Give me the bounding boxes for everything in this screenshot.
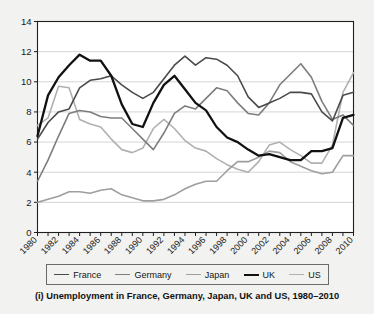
xtick-label-1984: 1984 — [60, 235, 81, 256]
xtick-label-2008: 2008 — [313, 235, 334, 256]
figure-caption: (i) Unemployment in France, Germany, Jap… — [0, 291, 374, 301]
legend-entry-japan[interactable]: Japan — [186, 270, 230, 280]
xtick-label-1986: 1986 — [81, 235, 102, 256]
legend-label-france: France — [73, 270, 101, 280]
ytick-label-6: 6 — [26, 136, 31, 147]
legend-label-us: US — [308, 270, 321, 280]
xtick-label-1982: 1982 — [39, 235, 60, 256]
legend-entry-france[interactable]: France — [54, 270, 101, 280]
xtick-label-2002: 2002 — [249, 235, 270, 256]
legend-entry-uk[interactable]: UK — [244, 270, 276, 280]
legend-entry-germany[interactable]: Germany — [115, 270, 171, 280]
ytick-label-10: 10 — [21, 76, 32, 87]
ytick-label-4: 4 — [26, 167, 31, 178]
figure-container: 0246810121419801982198419861988199019921… — [0, 0, 374, 314]
xtick-label-2006: 2006 — [292, 235, 313, 256]
legend-entry-us[interactable]: US — [289, 270, 321, 280]
ytick-label-14: 14 — [21, 16, 32, 27]
ytick-label-12: 12 — [21, 46, 32, 57]
legend-label-japan: Japan — [205, 270, 230, 280]
plot-background — [38, 22, 354, 233]
chart-plot-area: 0246810121419801982198419861988199019921… — [0, 0, 374, 262]
legend-line-swatch-germany — [115, 274, 130, 275]
ytick-label-2: 2 — [26, 197, 31, 208]
ytick-label-8: 8 — [26, 106, 31, 117]
xtick-label-1990: 1990 — [123, 235, 144, 256]
xtick-label-1980: 1980 — [18, 235, 39, 256]
xtick-label-2004: 2004 — [270, 235, 291, 256]
legend-line-swatch-japan — [186, 274, 201, 275]
xtick-label-1988: 1988 — [102, 235, 123, 256]
legend-label-germany: Germany — [134, 270, 171, 280]
xtick-label-1992: 1992 — [144, 235, 165, 256]
xtick-label-1994: 1994 — [165, 235, 186, 256]
legend-line-swatch-uk — [244, 274, 259, 276]
xtick-label-1996: 1996 — [186, 235, 207, 256]
legend-label-uk: UK — [263, 270, 276, 280]
xtick-label-2010: 2010 — [334, 235, 355, 256]
line-chart: 0246810121419801982198419861988199019921… — [0, 0, 374, 262]
chart-legend: FranceGermanyJapanUKUS — [46, 264, 329, 285]
xtick-label-2000: 2000 — [228, 235, 249, 256]
legend-line-swatch-us — [289, 274, 304, 275]
xtick-label-1998: 1998 — [207, 235, 228, 256]
legend-line-swatch-france — [54, 274, 69, 275]
